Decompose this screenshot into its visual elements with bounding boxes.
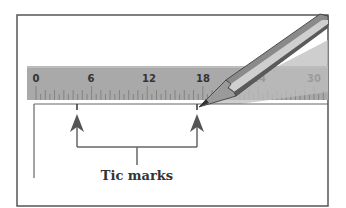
ruler-label-0: 0: [33, 73, 40, 84]
tic-marks-diagram: 0 6 12 18 24 30 Tic marks: [0, 0, 346, 208]
ruler-label-12: 12: [142, 73, 156, 84]
caption-tic-marks: Tic marks: [101, 168, 173, 183]
ruler-label-6: 6: [88, 73, 95, 84]
ruler-label-18: 18: [196, 73, 210, 84]
